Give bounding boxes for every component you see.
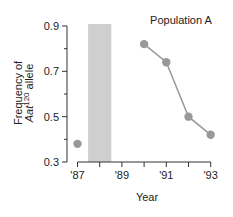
allele-superscript: 120	[22, 92, 31, 106]
y-tick-label: 0.7	[44, 65, 59, 77]
y-tick-label: 0.3	[44, 156, 59, 168]
isolated-data-point	[73, 140, 81, 148]
data-point	[207, 131, 215, 139]
shaded-region	[88, 24, 111, 162]
x-tick-label: '87	[70, 169, 84, 181]
y-tick-label: 0.5	[44, 111, 59, 123]
data-point	[140, 40, 148, 48]
x-axis-title: Year	[136, 191, 159, 203]
x-tick-label: '91	[159, 169, 173, 181]
axes: 0.30.50.70.9'87'89'91'93	[44, 20, 218, 181]
x-tick-label: '89	[115, 169, 129, 181]
chart: 0.30.50.70.9'87'89'91'93 Population A Ye…	[0, 0, 233, 217]
y-axis-title: Frequency of Aat120 allele	[12, 60, 35, 125]
x-tick-label: '93	[204, 169, 218, 181]
series-line	[144, 44, 211, 135]
y-axis-title-line2: Aat120 allele	[22, 64, 35, 124]
gene-name: Aat	[23, 105, 35, 123]
allele-suffix: allele	[23, 64, 35, 93]
data-point	[184, 112, 192, 120]
shaded-bar	[88, 24, 111, 162]
data-point	[162, 58, 170, 66]
y-tick-label: 0.9	[44, 20, 59, 32]
chart-title: Population A	[150, 14, 212, 26]
